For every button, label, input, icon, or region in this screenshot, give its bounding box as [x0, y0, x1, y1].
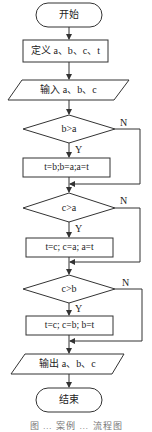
decision2-no-label: N	[120, 196, 127, 206]
end-label: 结束	[36, 395, 102, 405]
process2-label: t=c; c=a; a=t	[26, 243, 113, 253]
decision3-no-label: N	[122, 278, 129, 288]
decision2-label: c>a	[23, 203, 115, 213]
output-label: 输出 a、b、c	[11, 359, 124, 369]
define-label: 定义 a、b、c、t	[23, 46, 108, 56]
input-label: 输入 a、b、c	[8, 85, 129, 95]
process1-label: t=b;b=a;a=t	[23, 163, 110, 173]
decision3-yes-label: Y	[75, 304, 82, 314]
decision1-label: b>a	[23, 124, 115, 134]
process3-label: t=c; c=b; b=t	[26, 321, 113, 331]
decision1-yes-label: Y	[75, 145, 82, 155]
decision1-no-label: N	[120, 118, 127, 128]
start-label: 开始	[36, 10, 102, 20]
decision2-yes-label: Y	[75, 224, 82, 234]
figure-caption: 图 … 案例 … 流程图	[0, 419, 152, 432]
decision3-label: c>b	[23, 284, 115, 294]
